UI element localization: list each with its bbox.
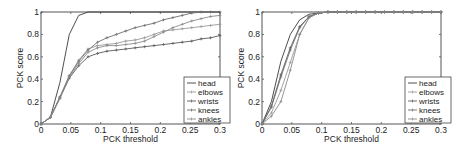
x-axis-label: PCK threshold xyxy=(103,134,158,144)
legend-label-elbows: elbows xyxy=(419,88,444,97)
legend-label-elbows: elbows xyxy=(198,88,223,97)
y-tick-label: 1 xyxy=(34,7,39,17)
legend-label-ankles: ankles xyxy=(198,115,221,124)
y-tick-label: 0.4 xyxy=(248,74,260,84)
legend-label-wrists: wrists xyxy=(197,97,218,106)
y-tick-label: 0.8 xyxy=(248,29,260,39)
legend-label-wrists: wrists xyxy=(418,97,439,106)
x-tick-label: 0.25 xyxy=(182,125,199,135)
x-tick-label: 0 xyxy=(260,125,265,135)
legend-label-ankles: ankles xyxy=(419,115,442,124)
y-tick-label: 0.6 xyxy=(27,52,39,62)
chart-right: 00.050.10.150.20.250.300.20.40.60.81PCK … xyxy=(231,0,462,150)
legend: headelbowswristskneesankles xyxy=(184,77,230,124)
pck-chart-left: 00.050.10.150.20.250.300.20.40.60.81PCK … xyxy=(0,0,231,150)
y-tick-label: 0.2 xyxy=(248,97,260,107)
legend: headelbowswristskneesankles xyxy=(405,77,451,124)
y-tick-label: 0.4 xyxy=(27,74,39,84)
legend-label-head: head xyxy=(419,79,437,88)
y-tick-label: 0 xyxy=(255,119,260,129)
x-tick-label: 0.3 xyxy=(435,125,447,135)
y-tick-label: 0.6 xyxy=(248,52,260,62)
x-tick-label: 0.25 xyxy=(403,125,420,135)
legend-label-knees: knees xyxy=(419,106,440,115)
y-tick-label: 1 xyxy=(255,7,260,17)
legend-label-head: head xyxy=(198,79,216,88)
y-tick-label: 0.2 xyxy=(27,97,39,107)
pck-chart-right: 00.050.10.150.20.250.300.20.40.60.81PCK … xyxy=(231,0,462,150)
x-tick-label: 0 xyxy=(39,125,44,135)
x-tick-label: 0.3 xyxy=(214,125,226,135)
chart-left: 00.050.10.150.20.250.300.20.40.60.81PCK … xyxy=(0,0,231,150)
x-tick-label: 0.05 xyxy=(284,125,301,135)
legend-label-knees: knees xyxy=(198,106,219,115)
y-tick-label: 0.8 xyxy=(27,29,39,39)
y-tick-label: 0 xyxy=(34,119,39,129)
x-axis-label: PCK threshold xyxy=(324,134,379,144)
x-tick-label: 0.05 xyxy=(63,125,80,135)
y-axis-label: PCK score xyxy=(236,47,246,88)
y-axis-label: PCK score xyxy=(15,47,25,88)
